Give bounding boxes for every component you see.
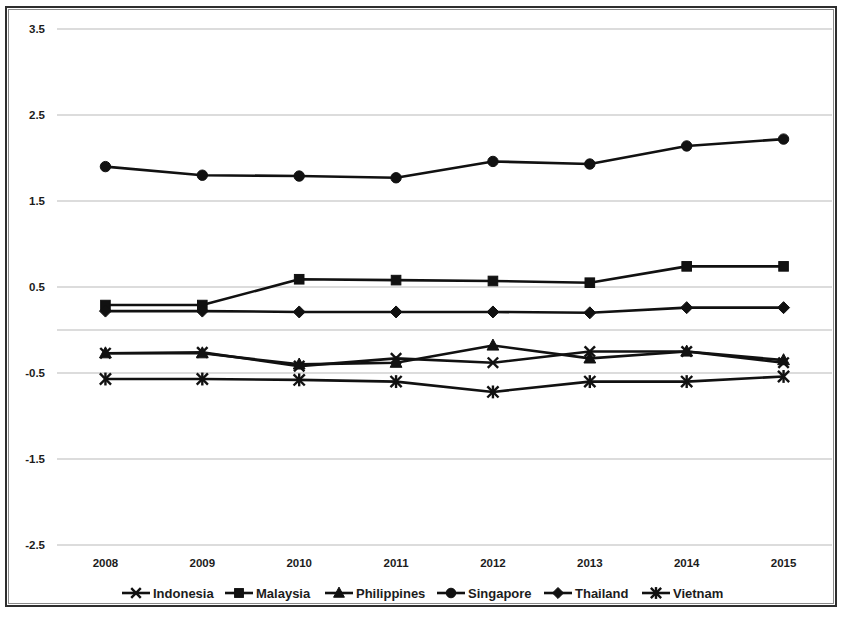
- data-point-marker-circle: [446, 588, 456, 598]
- legend-item-indonesia[interactable]: Indonesia: [122, 586, 214, 601]
- x-axis-tick-labels: 20082009201020112012201320142015: [93, 557, 797, 569]
- data-point-marker-diamond: [681, 302, 693, 314]
- x-axis-tick-label: 2008: [93, 557, 119, 569]
- y-axis-tick-label: 1.5: [29, 195, 46, 207]
- chart-legend: IndonesiaMalaysiaPhilippinesSingaporeTha…: [122, 586, 723, 601]
- data-point-marker-circle: [585, 159, 595, 169]
- data-point-marker-square: [294, 274, 304, 284]
- y-axis-tick-label: -2.5: [25, 539, 45, 551]
- data-point-marker-square: [585, 278, 595, 288]
- data-point-marker-square: [682, 262, 692, 272]
- legend-label: Philippines: [356, 586, 425, 601]
- data-point-marker-square: [391, 275, 401, 285]
- x-axis-tick-label: 2015: [771, 557, 797, 569]
- legend-label: Thailand: [575, 586, 629, 601]
- data-point-marker-square: [488, 276, 498, 286]
- data-point-marker-triangle: [487, 339, 499, 350]
- series-line: [105, 266, 783, 305]
- data-point-marker-circle: [100, 161, 110, 171]
- data-point-marker-circle: [391, 173, 401, 183]
- data-point-marker-circle: [681, 141, 691, 151]
- series-vietnam: [100, 370, 789, 398]
- legend-item-malaysia[interactable]: Malaysia: [225, 586, 311, 601]
- legend-item-vietnam[interactable]: Vietnam: [642, 586, 723, 601]
- legend-item-philippines[interactable]: Philippines: [325, 586, 425, 601]
- legend-item-thailand[interactable]: Thailand: [544, 586, 629, 601]
- x-axis-tick-label: 2012: [480, 557, 506, 569]
- gridlines: [57, 29, 832, 545]
- y-axis-tick-label: -0.5: [25, 367, 45, 379]
- y-axis-tick-label: 3.5: [29, 23, 46, 35]
- y-axis-tick-label: 0.5: [29, 281, 46, 293]
- data-point-marker-diamond: [487, 306, 499, 318]
- legend-label: Indonesia: [153, 586, 214, 601]
- y-axis-tick-labels: 3.52.51.50.5-0.5-1.5-2.5: [25, 23, 45, 551]
- chart-figure: 3.52.51.50.5-0.5-1.5-2.5 200820092010201…: [0, 0, 843, 617]
- series-singapore: [100, 134, 789, 183]
- data-point-marker-diamond: [390, 306, 402, 318]
- legend-label: Vietnam: [673, 586, 723, 601]
- legend-item-singapore[interactable]: Singapore: [437, 586, 532, 601]
- data-point-marker-circle: [488, 156, 498, 166]
- x-axis-tick-label: 2010: [286, 557, 312, 569]
- x-axis-tick-label: 2011: [384, 557, 410, 569]
- data-point-marker-circle: [197, 170, 207, 180]
- x-axis-tick-label: 2013: [577, 557, 603, 569]
- data-point-marker-square: [235, 589, 244, 598]
- series-philippines: [100, 339, 790, 369]
- data-point-marker-diamond: [552, 587, 563, 598]
- data-point-marker-square: [779, 262, 789, 272]
- data-point-marker-diamond: [584, 307, 596, 319]
- legend-label: Singapore: [468, 586, 532, 601]
- legend-label: Malaysia: [256, 586, 311, 601]
- y-axis-tick-label: -1.5: [25, 453, 45, 465]
- data-point-marker-circle: [778, 134, 788, 144]
- data-series-group: [99, 134, 789, 398]
- data-point-marker-diamond: [293, 306, 305, 318]
- x-axis-tick-label: 2009: [190, 557, 216, 569]
- line-chart-plot: 3.52.51.50.5-0.5-1.5-2.5 200820092010201…: [0, 0, 843, 617]
- x-axis-tick-label: 2014: [674, 557, 700, 569]
- data-point-marker-circle: [294, 171, 304, 181]
- y-axis-tick-label: 2.5: [29, 109, 46, 121]
- data-point-marker-diamond: [778, 302, 790, 314]
